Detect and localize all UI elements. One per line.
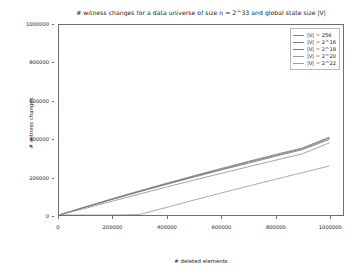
legend-line-swatch: [293, 42, 304, 43]
x-axis-label: # deleted elements: [58, 258, 344, 264]
legend-label: |V| = 2^18: [307, 46, 336, 53]
line-series: [59, 143, 329, 215]
legend-label: |V| = 2^22: [307, 60, 336, 67]
y-tick-label: 1000000: [26, 21, 49, 27]
legend-line-swatch: [293, 56, 304, 57]
legend-label: |V| = 2^16: [307, 39, 336, 46]
y-tick-label: 800000: [29, 59, 49, 65]
y-tick-label: 200000: [29, 175, 49, 181]
x-tick-mark: [112, 216, 113, 219]
x-tick-label: 1000000: [319, 224, 342, 230]
x-tick-mark: [167, 216, 168, 219]
legend-line-swatch: [293, 49, 304, 50]
x-tick-label: 0: [56, 224, 59, 230]
y-tick-mark: [52, 24, 55, 25]
y-tick-mark: [52, 178, 55, 179]
x-tick-label: 600000: [212, 224, 232, 230]
y-axis-label: # witness changes: [28, 98, 34, 149]
y-tick-mark: [52, 216, 55, 217]
line-series: [59, 166, 329, 215]
legend-item: |V| = 2^22: [293, 60, 336, 67]
x-tick-mark: [58, 216, 59, 219]
legend-item: |V| = 2^16: [293, 39, 336, 46]
y-tick-label: 0: [46, 213, 49, 219]
x-axis-tick-labels: 02000004000006000008000001000000: [58, 220, 344, 230]
chart-figure: # witness changes for a data universe of…: [0, 0, 360, 277]
legend-label: |V| = 256: [307, 32, 332, 39]
legend-item: |V| = 2^18: [293, 46, 336, 53]
chart-legend: |V| = 256|V| = 2^16|V| = 2^18|V| = 2^20|…: [290, 28, 340, 70]
x-tick-mark: [221, 216, 222, 219]
legend-line-swatch: [293, 35, 304, 36]
y-tick-mark: [52, 139, 55, 140]
legend-line-swatch: [293, 63, 304, 64]
legend-item: |V| = 256: [293, 32, 336, 39]
y-tick-mark: [52, 62, 55, 63]
x-tick-label: 800000: [266, 224, 286, 230]
plot-area: |V| = 256|V| = 2^16|V| = 2^18|V| = 2^20|…: [58, 24, 344, 216]
chart-title: # witness changes for a data universe of…: [58, 9, 344, 17]
x-tick-label: 200000: [103, 224, 123, 230]
legend-item: |V| = 2^20: [293, 53, 336, 60]
line-series: [59, 139, 329, 215]
x-tick-mark: [276, 216, 277, 219]
legend-label: |V| = 2^20: [307, 53, 336, 60]
x-tick-mark: [330, 216, 331, 219]
y-tick-mark: [52, 101, 55, 102]
x-tick-label: 400000: [157, 224, 177, 230]
